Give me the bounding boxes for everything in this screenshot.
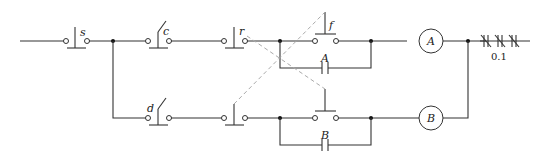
label-r: r [239, 25, 245, 38]
interlock-link-r-f [247, 36, 325, 89]
overload-value: 0.1 [491, 51, 507, 62]
label-aux-a: A [320, 52, 329, 65]
label-aux-b: B [320, 129, 329, 142]
label-c: c [163, 25, 169, 38]
label-f: f [328, 19, 335, 32]
label-s: s [80, 26, 86, 39]
right-return-wire [443, 41, 468, 118]
interlock-link-r-f-2 [234, 12, 325, 104]
left-branch-wire [113, 41, 146, 118]
overload-contacts [480, 35, 530, 47]
circuit-diagram: s c r f A d B A B 0.1 [0, 0, 544, 167]
bottom-rung [146, 89, 444, 151]
coil-b-label: B [426, 112, 435, 125]
coil-a-label: A [426, 35, 435, 48]
top-rung [20, 12, 530, 74]
label-d: d [147, 102, 154, 115]
